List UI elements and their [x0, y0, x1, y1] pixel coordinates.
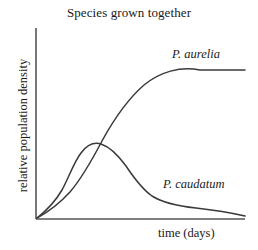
series-label-p-caudatum: P. caudatum: [163, 177, 225, 192]
x-axis-label: time (days): [158, 226, 215, 241]
y-axis-label: relative population density: [16, 31, 31, 221]
chart-plot-area: [0, 0, 258, 250]
curve-p-aurelia: [37, 69, 245, 218]
series-label-p-aurelia: P. aurelia: [172, 47, 220, 62]
chart-figure: Species grown together relative populati…: [0, 0, 258, 250]
